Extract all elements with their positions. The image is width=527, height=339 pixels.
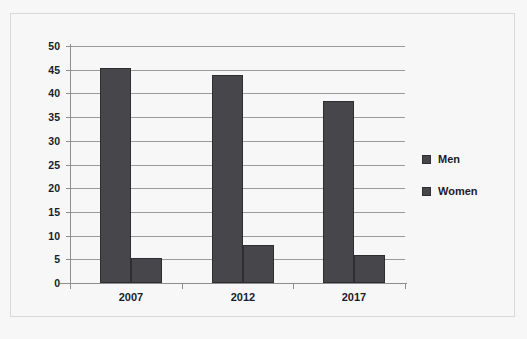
x-axis-tick-label-2007: 2007 xyxy=(101,291,161,303)
y-axis-tick-mark xyxy=(66,259,72,260)
bar-women-2017 xyxy=(354,255,385,283)
x-axis-line xyxy=(60,283,407,284)
y-axis-tick-label: 30 xyxy=(36,136,60,147)
y-axis-tick-labels: 05101520253035404550 xyxy=(36,0,60,339)
legend-label-women: Women xyxy=(438,185,478,197)
y-axis-tick-mark xyxy=(66,165,72,166)
y-axis-tick-label: 5 xyxy=(36,254,60,265)
legend-swatch-men-icon xyxy=(422,155,431,164)
legend-item[interactable]: Men xyxy=(422,150,512,168)
y-axis-tick-mark xyxy=(66,141,72,142)
bar-men-2012 xyxy=(212,75,243,283)
x-axis-tick-label-2012: 2012 xyxy=(213,291,273,303)
y-axis-tick-label: 0 xyxy=(36,278,60,289)
y-axis-tick-label: 25 xyxy=(36,160,60,171)
y-axis-tick-label: 15 xyxy=(36,207,60,218)
y-axis-tick-mark xyxy=(66,93,72,94)
plot-area xyxy=(70,46,405,283)
x-axis-tick-mark xyxy=(70,283,71,289)
bar-women-2007 xyxy=(131,258,162,283)
y-axis-tick-label: 40 xyxy=(36,88,60,99)
y-axis-tick-mark xyxy=(66,46,72,47)
x-axis-tick-mark xyxy=(405,283,406,289)
y-axis-tick-label: 35 xyxy=(36,112,60,123)
bar-women-2012 xyxy=(243,245,274,283)
x-axis-tick-label-2017: 2017 xyxy=(324,291,384,303)
y-axis-tick-label: 20 xyxy=(36,183,60,194)
y-axis-tick-mark xyxy=(66,70,72,71)
chart-legend: Men Women xyxy=(422,150,512,214)
y-axis-tick-mark xyxy=(66,283,72,284)
x-axis-tick-mark xyxy=(182,283,183,289)
chart-figure: 05101520253035404550 200720122017 Men Wo… xyxy=(0,0,527,339)
bar-men-2017 xyxy=(323,101,354,283)
legend-label-men: Men xyxy=(438,153,460,165)
bar-men-2007 xyxy=(100,68,131,283)
y-axis-tick-label: 10 xyxy=(36,231,60,242)
gridline xyxy=(70,46,405,47)
y-axis-tick-mark xyxy=(66,188,72,189)
y-axis-tick-label: 45 xyxy=(36,65,60,76)
x-axis-tick-mark xyxy=(293,283,294,289)
legend-swatch-women-icon xyxy=(422,187,431,196)
legend-item[interactable]: Women xyxy=(422,182,512,200)
y-axis-tick-mark xyxy=(66,117,72,118)
y-axis-tick-label: 50 xyxy=(36,41,60,52)
y-axis-tick-mark xyxy=(66,236,72,237)
y-axis-tick-mark xyxy=(66,212,72,213)
